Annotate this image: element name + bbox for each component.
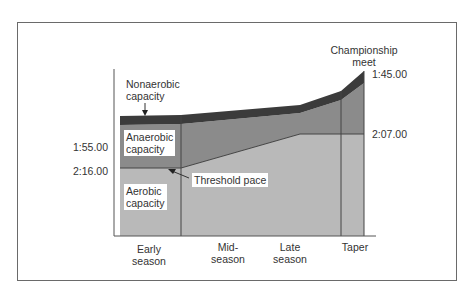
nonaerobic-label: Nonaerobic capacity <box>126 78 180 102</box>
anaerobic-label-line1: Anaerobic <box>126 131 173 143</box>
aerobic-label: Aerobic capacity <box>124 184 167 210</box>
x-label-taper-line1: Taper <box>330 241 380 253</box>
x-label-early-season: Early season <box>124 243 174 267</box>
aerobic-label-line2: capacity <box>126 197 165 209</box>
anaerobic-label: Anaerobic capacity <box>124 130 175 156</box>
y-tick-1-45: 1:45.00 <box>372 68 407 80</box>
x-label-taper: Taper <box>330 241 380 253</box>
x-label-late-line2: season <box>265 253 315 265</box>
nonaerobic-label-line1: Nonaerobic <box>126 78 180 90</box>
y-tick-1-55: 1:55.00 <box>58 141 108 153</box>
threshold-pace-label: Threshold pace <box>192 173 268 187</box>
anaerobic-label-line2: capacity <box>126 143 173 155</box>
championship-label-line1: Championship <box>326 44 402 56</box>
y-tick-2-07: 2:07.00 <box>372 128 407 140</box>
aerobic-label-line1: Aerobic <box>126 185 165 197</box>
nonaerobic-arrowhead <box>142 110 148 116</box>
y-tick-2-16: 2:16.00 <box>58 165 108 177</box>
x-label-early-line2: season <box>124 255 174 267</box>
championship-label-line2: meet <box>326 56 402 68</box>
x-label-mid-line1: Mid- <box>203 241 253 253</box>
x-label-mid-line2: season <box>203 253 253 265</box>
x-label-late-line1: Late <box>265 241 315 253</box>
nonaerobic-label-line2: capacity <box>126 90 180 102</box>
championship-meet-label: Championship meet <box>326 44 402 68</box>
x-label-mid-season: Mid- season <box>203 241 253 265</box>
x-label-early-line1: Early <box>124 243 174 255</box>
x-label-late-season: Late season <box>265 241 315 265</box>
